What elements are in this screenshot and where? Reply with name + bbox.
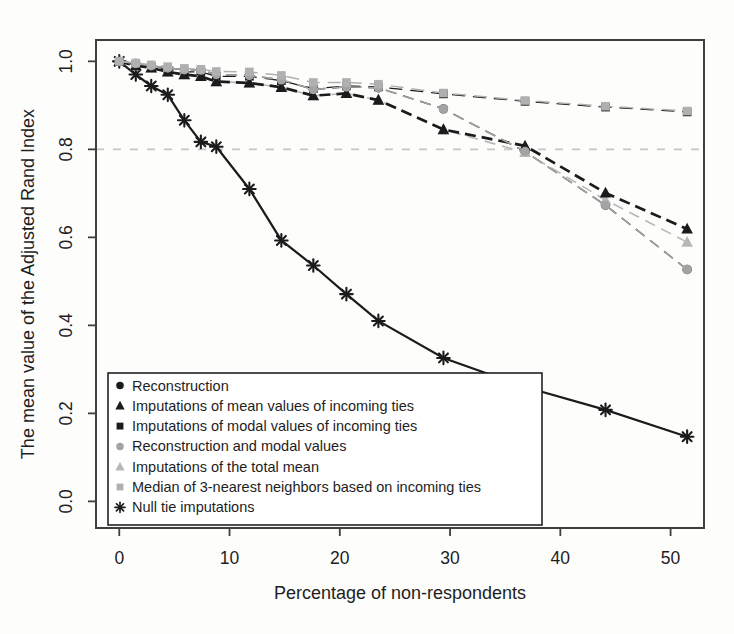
x-axis-title: Percentage of non-respondents [274, 583, 526, 603]
legend-item-2: Imputations of modal values of incoming … [117, 418, 418, 434]
legend-label: Null tie imputations [132, 499, 255, 515]
y-tick-label: 0.2 [56, 401, 76, 425]
legend-label: Imputations of modal values of incoming … [132, 418, 417, 434]
legend-label: Reconstruction and modal values [132, 438, 346, 454]
legend-item-3: Reconstruction and modal values [116, 438, 346, 454]
x-tick-label: 10 [220, 548, 240, 568]
x-tick-label: 20 [330, 548, 350, 568]
y-tick-label: 0.8 [56, 137, 76, 161]
x-tick-label: 0 [114, 548, 124, 568]
legend-item-1: Imputations of mean values of incoming t… [115, 398, 414, 414]
series-markers [115, 57, 692, 275]
series-markers [115, 57, 691, 115]
legend-label: Median of 3-nearest neighbors based on i… [132, 479, 481, 495]
x-tick-label: 40 [551, 548, 571, 568]
legend: ReconstructionImputations of mean values… [108, 373, 542, 525]
x-axis: 01020304050Percentage of non-respondents [114, 528, 680, 603]
y-axis-title: The mean value of the Adjusted Rand Inde… [18, 109, 38, 459]
series-3-reconstruction-and-modal-values [115, 57, 692, 275]
series-line [119, 61, 687, 269]
legend-item-6: Null tie imputations [115, 499, 255, 515]
legend-item-0: Reconstruction [116, 378, 228, 394]
series-0-reconstruction [115, 57, 692, 275]
x-tick-label: 50 [661, 548, 681, 568]
figure: 01020304050Percentage of non-respondents… [0, 0, 734, 634]
y-tick-label: 1.0 [56, 49, 76, 74]
x-tick-label: 30 [440, 548, 460, 568]
y-tick-label: 0.6 [56, 225, 76, 249]
y-tick-label: 0.4 [56, 313, 76, 338]
legend-item-5: Median of 3-nearest neighbors based on i… [117, 479, 481, 495]
chart-svg: 01020304050Percentage of non-respondents… [0, 0, 734, 634]
legend-item-4: Imputations of the total mean [115, 459, 319, 475]
y-tick-label: 0.0 [56, 489, 76, 514]
legend-label: Imputations of mean values of incoming t… [132, 398, 414, 414]
series-markers [113, 55, 692, 247]
y-axis: 0.00.20.40.60.81.0The mean value of the … [18, 49, 96, 514]
series-line [119, 61, 687, 269]
legend-label: Imputations of the total mean [132, 459, 319, 475]
series-4-imputations-of-the-total-mean [113, 55, 692, 247]
series-5-median-of-3-nearest-neighbors-based-on-incoming-ties [115, 57, 691, 115]
series-markers [115, 57, 692, 275]
legend-label: Reconstruction [132, 378, 229, 394]
series-line [119, 61, 687, 242]
